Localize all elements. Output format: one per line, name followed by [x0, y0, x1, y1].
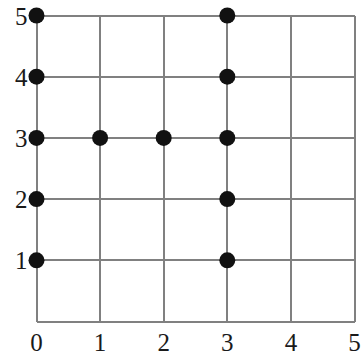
data-point	[219, 8, 235, 24]
grid-lines-horizontal	[37, 16, 355, 261]
y-axis-tick-label: 3	[15, 125, 28, 150]
data-point	[219, 191, 235, 207]
data-point	[29, 69, 45, 85]
data-point	[156, 130, 172, 146]
data-point	[92, 130, 108, 146]
x-axis-tick-label: 1	[94, 330, 107, 352]
data-point	[29, 8, 45, 24]
data-point	[29, 252, 45, 268]
x-axis-tick-label: 2	[157, 330, 170, 352]
y-axis-tick-label: 1	[15, 248, 28, 273]
data-point	[219, 252, 235, 268]
x-axis-tick-label: 5	[348, 330, 361, 352]
data-point	[219, 69, 235, 85]
y-axis-tick-label: 4	[15, 64, 28, 89]
x-axis-tick-label: 4	[285, 330, 298, 352]
axis-lines	[37, 16, 355, 322]
y-axis-tick-label: 5	[15, 3, 28, 28]
x-axis-tick-label: 3	[221, 330, 234, 352]
y-axis-tick-label: 2	[15, 187, 28, 212]
data-point	[29, 191, 45, 207]
data-point	[29, 130, 45, 146]
grid-lines-vertical	[100, 16, 354, 322]
x-axis-tick-label: 0	[30, 330, 43, 352]
data-point	[219, 130, 235, 146]
